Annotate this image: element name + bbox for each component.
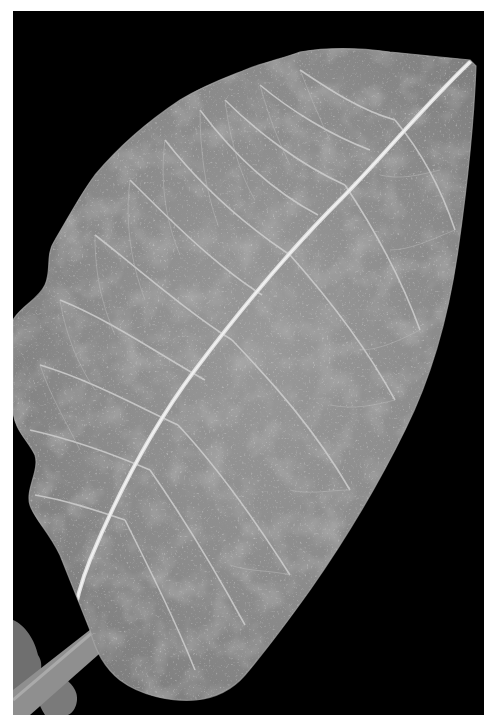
photo-background [13,11,484,715]
leaf-photo [13,11,484,715]
leaf-blade [13,11,484,715]
image-frame [0,0,496,727]
